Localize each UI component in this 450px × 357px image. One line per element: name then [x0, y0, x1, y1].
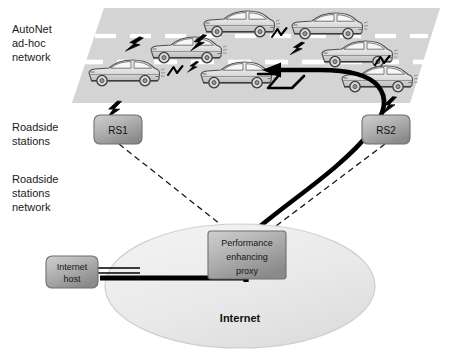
rs2-to-proxy-link — [268, 144, 385, 232]
network-diagram-canvas: Internet RS1 RS2 Performance enhancing p… — [0, 0, 450, 357]
proxy-label-line3: proxy — [236, 266, 259, 276]
rs1-label: RS1 — [108, 125, 128, 136]
node-rs1[interactable]: RS1 — [94, 115, 142, 144]
node-performance-enhancing-proxy[interactable]: Performance enhancing proxy — [208, 231, 286, 279]
node-internet-host[interactable]: Internet host — [46, 256, 98, 288]
rs2-label: RS2 — [376, 125, 396, 136]
node-rs2[interactable]: RS2 — [362, 115, 410, 144]
internet-host-label-line2: host — [63, 274, 81, 284]
rs1-to-proxy-link — [119, 144, 230, 232]
proxy-label-line1: Performance — [221, 238, 273, 248]
diagram-page: AutoNet ad-hoc network Roadside stations… — [0, 0, 450, 357]
internet-cloud-label: Internet — [220, 312, 261, 324]
internet-host-label-line1: Internet — [57, 262, 88, 272]
proxy-label-line2: enhancing — [226, 252, 268, 262]
